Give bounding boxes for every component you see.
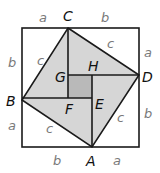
vertex-label-g: G — [55, 69, 66, 85]
vertex-label-e: E — [95, 96, 104, 112]
side-label-hyp-ad: c — [117, 110, 124, 125]
side-label-bottom-b: b — [53, 153, 61, 168]
side-label-left-a: a — [8, 118, 16, 133]
side-label-right-b: b — [144, 106, 152, 121]
vertex-label-h: H — [88, 58, 99, 74]
side-label-top-a: a — [39, 10, 47, 25]
vertex-label-a: A — [85, 153, 96, 169]
side-label-top-b: b — [101, 10, 109, 25]
vertex-label-b: B — [6, 93, 16, 109]
side-label-hyp-bc: c — [37, 53, 44, 68]
inner-square — [68, 75, 92, 98]
side-label-right-a: a — [144, 45, 152, 60]
vertex-label-c: C — [63, 8, 73, 24]
side-label-bottom-a: a — [113, 153, 121, 168]
side-label-left-b: b — [8, 55, 16, 70]
side-label-hyp-ab: c — [46, 121, 53, 136]
vertex-label-f: F — [65, 101, 74, 117]
side-label-hyp-cd: c — [107, 36, 114, 51]
pythagoras-diagram: C D A B G H E F a b b a a b b a c c c c — [0, 0, 160, 173]
vertex-label-d: D — [142, 69, 153, 85]
